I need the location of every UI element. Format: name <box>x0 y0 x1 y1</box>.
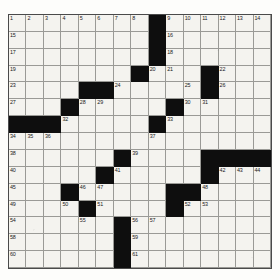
grid-cell[interactable]: 48 <box>201 184 218 201</box>
grid-cell[interactable] <box>184 49 201 66</box>
grid-cell[interactable] <box>96 217 113 234</box>
grid-cell[interactable] <box>254 217 271 234</box>
grid-cell[interactable] <box>236 201 253 218</box>
grid-cell[interactable]: 53 <box>201 201 218 218</box>
grid-cell[interactable]: 6 <box>96 15 113 32</box>
grid-cell[interactable] <box>44 201 61 218</box>
grid-cell[interactable] <box>219 234 236 251</box>
grid-cell[interactable] <box>114 116 131 133</box>
grid-cell[interactable] <box>184 32 201 49</box>
grid-cell[interactable]: 3 <box>44 15 61 32</box>
grid-cell[interactable] <box>166 251 183 268</box>
grid-cell[interactable] <box>149 99 166 116</box>
grid-cell[interactable]: 35 <box>26 133 43 150</box>
grid-cell[interactable] <box>61 133 78 150</box>
grid-cell[interactable] <box>26 32 43 49</box>
grid-cell[interactable]: 2 <box>26 15 43 32</box>
grid-cell[interactable] <box>114 49 131 66</box>
grid-cell[interactable] <box>96 234 113 251</box>
grid-cell[interactable] <box>166 167 183 184</box>
grid-cell[interactable] <box>61 32 78 49</box>
grid-cell[interactable] <box>96 150 113 167</box>
grid-cell[interactable] <box>61 217 78 234</box>
grid-cell[interactable]: 20 <box>149 66 166 83</box>
grid-cell[interactable] <box>236 32 253 49</box>
grid-cell[interactable] <box>219 133 236 150</box>
grid-cell[interactable] <box>184 150 201 167</box>
grid-cell[interactable] <box>44 184 61 201</box>
grid-cell[interactable]: 45 <box>9 184 26 201</box>
grid-cell[interactable] <box>149 234 166 251</box>
grid-cell[interactable] <box>254 32 271 49</box>
grid-cell[interactable] <box>114 66 131 83</box>
grid-cell[interactable] <box>79 32 96 49</box>
grid-cell[interactable]: 1 <box>9 15 26 32</box>
grid-cell[interactable]: 23 <box>9 82 26 99</box>
grid-cell[interactable] <box>131 201 148 218</box>
grid-cell[interactable]: 34 <box>9 133 26 150</box>
grid-cell[interactable] <box>114 201 131 218</box>
grid-cell[interactable] <box>44 217 61 234</box>
grid-cell[interactable] <box>26 184 43 201</box>
grid-cell[interactable]: 12 <box>219 15 236 32</box>
grid-cell[interactable] <box>201 217 218 234</box>
grid-cell[interactable]: 42 <box>219 167 236 184</box>
grid-cell[interactable] <box>131 49 148 66</box>
grid-cell[interactable] <box>219 49 236 66</box>
grid-cell[interactable] <box>201 133 218 150</box>
grid-cell[interactable] <box>96 133 113 150</box>
grid-cell[interactable]: 57 <box>149 217 166 234</box>
grid-cell[interactable] <box>201 234 218 251</box>
grid-cell[interactable] <box>79 251 96 268</box>
grid-cell[interactable] <box>26 234 43 251</box>
crossword-grid[interactable]: 1234567891011121314151617181920212223242… <box>8 14 272 269</box>
grid-cell[interactable]: 16 <box>166 32 183 49</box>
grid-cell[interactable]: 11 <box>201 15 218 32</box>
grid-cell[interactable] <box>114 32 131 49</box>
grid-cell[interactable]: 26 <box>219 82 236 99</box>
grid-cell[interactable] <box>166 82 183 99</box>
grid-cell[interactable]: 55 <box>79 217 96 234</box>
grid-cell[interactable] <box>236 133 253 150</box>
grid-cell[interactable]: 25 <box>184 82 201 99</box>
grid-cell[interactable] <box>26 49 43 66</box>
grid-cell[interactable] <box>201 251 218 268</box>
grid-cell[interactable]: 60 <box>9 251 26 268</box>
grid-cell[interactable] <box>254 66 271 83</box>
grid-cell[interactable] <box>149 201 166 218</box>
grid-cell[interactable] <box>254 49 271 66</box>
grid-cell[interactable]: 29 <box>96 99 113 116</box>
grid-cell[interactable] <box>166 150 183 167</box>
grid-cell[interactable] <box>61 66 78 83</box>
grid-cell[interactable]: 58 <box>9 234 26 251</box>
grid-cell[interactable] <box>44 251 61 268</box>
grid-cell[interactable]: 50 <box>61 201 78 218</box>
grid-cell[interactable] <box>219 99 236 116</box>
grid-cell[interactable]: 8 <box>131 15 148 32</box>
grid-cell[interactable] <box>184 66 201 83</box>
grid-cell[interactable] <box>61 82 78 99</box>
grid-cell[interactable]: 41 <box>114 167 131 184</box>
grid-cell[interactable] <box>219 116 236 133</box>
grid-cell[interactable]: 52 <box>184 201 201 218</box>
grid-cell[interactable] <box>61 234 78 251</box>
grid-cell[interactable] <box>236 99 253 116</box>
grid-cell[interactable] <box>26 201 43 218</box>
grid-cell[interactable]: 24 <box>114 82 131 99</box>
grid-cell[interactable] <box>149 251 166 268</box>
grid-cell[interactable]: 46 <box>79 184 96 201</box>
grid-cell[interactable]: 7 <box>114 15 131 32</box>
grid-cell[interactable] <box>254 234 271 251</box>
grid-cell[interactable] <box>219 184 236 201</box>
grid-cell[interactable] <box>44 66 61 83</box>
grid-cell[interactable] <box>131 99 148 116</box>
grid-cell[interactable] <box>166 217 183 234</box>
grid-cell[interactable]: 21 <box>166 66 183 83</box>
grid-cell[interactable] <box>254 133 271 150</box>
grid-cell[interactable] <box>79 234 96 251</box>
grid-cell[interactable] <box>61 167 78 184</box>
grid-cell[interactable]: 18 <box>166 49 183 66</box>
grid-cell[interactable]: 38 <box>9 150 26 167</box>
grid-cell[interactable] <box>79 133 96 150</box>
grid-cell[interactable] <box>131 32 148 49</box>
